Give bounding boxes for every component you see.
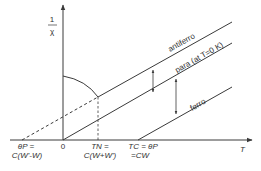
origin-label: 0 (61, 142, 66, 151)
antiferro-low-temp-curve (63, 76, 98, 97)
antiferro-line (98, 22, 232, 97)
y-axis-label-numerator: 1 (50, 15, 55, 24)
y-axis-label-denominator: χ (50, 27, 55, 36)
ferro-label: ferro (189, 97, 208, 113)
theta-p-label: θP = (18, 142, 35, 151)
susceptibility-diagram: 1 χ antiferro para (at T=0 K) ferro 0 T … (0, 0, 261, 171)
ferro-line (138, 87, 232, 140)
antiferro-extrapolation-dashed (22, 97, 98, 140)
tc-formula: =CW (131, 151, 150, 160)
tn-formula: C(W+W') (84, 151, 117, 160)
x-axis-label: T (240, 145, 246, 154)
tc-label: TC = θP (128, 142, 158, 151)
tn-label: TN = (91, 142, 109, 151)
theta-p-formula: C(W'-W) (12, 151, 43, 160)
